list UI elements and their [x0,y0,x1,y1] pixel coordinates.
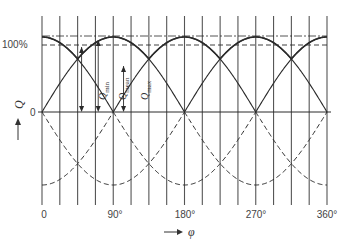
q-min-arrow-icon-head [79,106,84,112]
x-tick-label: 270° [246,209,267,220]
grid-lines [42,16,327,205]
q-max-sub: max [145,80,153,93]
q-max-arrow-icon-tail [121,66,126,72]
x-tick-label: 360° [317,209,338,220]
svg-text:Qmin: Qmin [97,81,111,100]
x-axis-arrow-icon [164,229,183,235]
x-tick-label: 90° [107,209,122,220]
y-label-zero: 0 [30,107,36,118]
x-tick-label: 0 [41,209,47,220]
y-label-100: 100% [2,39,28,50]
q-mean-label: Qmean [117,77,131,100]
y-axis-arrow-icon [15,118,21,140]
q-mean-sub: mean [123,77,131,93]
x-tick-labels: 0 90° 180° 270° 360° [41,209,337,220]
q-max-arrow-icon-head [121,106,126,112]
waveform-diagram: 100% 0 Q 0 90° 180° 270° 360° φ Qmin Qme… [0,0,352,240]
q-min-arrow-icon-tail [79,47,84,53]
q-min-label: Qmin [97,81,111,100]
x-tick-label: 180° [175,209,196,220]
svg-text:Qmax: Qmax [139,80,153,100]
x-axis-symbol: φ [188,225,195,239]
svg-text:Qmean: Qmean [117,77,131,100]
q-max-label: Qmax [139,80,153,100]
q-min-sub: min [103,81,111,92]
q-mean-arrow-icon-head [96,106,101,112]
y-axis-symbol: Q [12,100,26,109]
